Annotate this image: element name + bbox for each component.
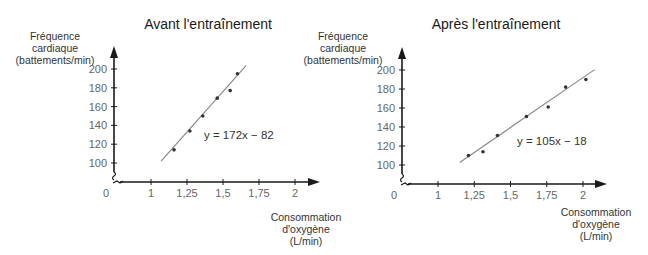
x-axis-label-line-3: (L/min) bbox=[580, 230, 613, 242]
x-tick-label: 1 bbox=[435, 189, 441, 201]
x-tick-label: 1,5 bbox=[503, 189, 518, 201]
plot-area: 100120140160180200011,251,51,752 bbox=[377, 47, 607, 201]
x-tick-label: 1 bbox=[148, 187, 154, 199]
y-tick-label: 200 bbox=[377, 64, 395, 76]
y-axis-label-line-2: cardiaque bbox=[32, 42, 78, 54]
data-point bbox=[467, 154, 471, 158]
data-point bbox=[236, 72, 240, 76]
x-axis-label-line-2: d'oxygène bbox=[572, 218, 620, 230]
chart-after-training: Après l'entraînement Fréquence cardiaque… bbox=[304, 16, 632, 242]
y-axis-label-line-1: Fréquence bbox=[318, 30, 368, 42]
x-tick-label: 1,75 bbox=[536, 189, 557, 201]
chart-title: Après l'entraînement bbox=[432, 16, 561, 32]
data-point bbox=[481, 150, 485, 154]
y-tick-label: 160 bbox=[89, 101, 107, 113]
chart-before-training: Avant l'entraînement Fréquence cardiaque… bbox=[16, 16, 342, 247]
x-tick-label: 2 bbox=[580, 189, 586, 201]
y-axis-arrow-icon bbox=[110, 46, 118, 58]
data-point bbox=[188, 129, 192, 133]
data-point bbox=[584, 78, 588, 82]
figure: Avant l'entraînement Fréquence cardiaque… bbox=[0, 0, 648, 255]
x-axis-arrow-icon bbox=[308, 178, 320, 186]
x-tick-label: 2 bbox=[292, 187, 298, 199]
regression-line bbox=[161, 66, 246, 161]
y-tick-label: 200 bbox=[89, 63, 107, 75]
y-tick-label: 120 bbox=[377, 140, 395, 152]
x-tick-label: 1,75 bbox=[248, 187, 269, 199]
plot-area: 100120140160180200011,251,51,752 bbox=[89, 46, 320, 199]
y-tick-label: 140 bbox=[377, 121, 395, 133]
y-tick-label: 180 bbox=[377, 83, 395, 95]
y-tick-label: 180 bbox=[89, 82, 107, 94]
y-tick-label: 140 bbox=[89, 119, 107, 131]
x-axis-label-line-2: d'oxygène bbox=[282, 223, 330, 235]
x-axis-label-line-1: Consommation bbox=[561, 206, 632, 218]
x-tick-label: 1,5 bbox=[215, 187, 230, 199]
axis-break-icon bbox=[113, 172, 124, 183]
y-tick-label: 100 bbox=[377, 159, 395, 171]
y-axis-label-line-3: (battements/min) bbox=[16, 54, 95, 66]
x-axis-label-line-1: Consommation bbox=[271, 211, 342, 223]
regression-equation: y = 172x − 82 bbox=[204, 129, 274, 141]
x-tick-label: 1,25 bbox=[464, 189, 485, 201]
y-axis-label-line-3: (battements/min) bbox=[304, 54, 383, 66]
data-point bbox=[546, 105, 550, 109]
data-point bbox=[172, 148, 176, 152]
charts-canvas: Avant l'entraînement Fréquence cardiaque… bbox=[0, 0, 648, 255]
data-point bbox=[525, 115, 529, 119]
x-tick-label: 0 bbox=[103, 187, 109, 199]
x-tick-label: 0 bbox=[391, 189, 397, 201]
x-axis-arrow-icon bbox=[595, 180, 607, 188]
chart-title: Avant l'entraînement bbox=[144, 16, 272, 32]
data-point bbox=[228, 89, 232, 93]
y-axis-label-line-1: Fréquence bbox=[30, 30, 80, 42]
y-tick-label: 160 bbox=[377, 102, 395, 114]
y-tick-label: 120 bbox=[89, 138, 107, 150]
data-point bbox=[215, 96, 219, 100]
axis-break-icon bbox=[401, 174, 412, 185]
regression-equation: y = 105x − 18 bbox=[517, 135, 587, 147]
data-point bbox=[564, 85, 568, 89]
x-tick-label: 1,25 bbox=[176, 187, 197, 199]
x-axis-label-line-3: (L/min) bbox=[290, 235, 323, 247]
y-tick-label: 100 bbox=[89, 157, 107, 169]
data-point bbox=[496, 134, 500, 138]
y-axis-arrow-icon bbox=[398, 47, 406, 59]
y-axis-label-line-2: cardiaque bbox=[320, 42, 366, 54]
data-point bbox=[201, 114, 205, 118]
